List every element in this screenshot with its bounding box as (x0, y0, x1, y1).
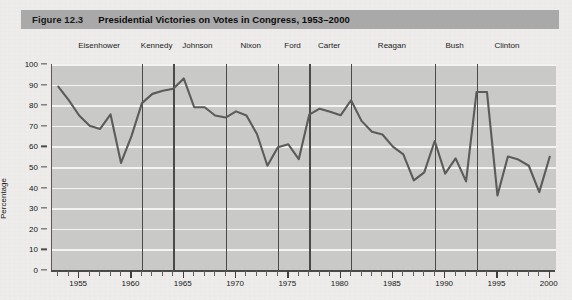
presidential-victories-line (58, 78, 549, 195)
y-tick-mark-90 (41, 84, 47, 85)
y-tick-mark-0 (41, 269, 47, 270)
x-tick-1957 (99, 271, 100, 276)
y-tick-label-70: 70 (29, 121, 38, 130)
x-tick-1962 (151, 271, 152, 276)
x-tick-1977 (308, 271, 309, 276)
president-label-carter: Carter (318, 41, 340, 50)
y-tick-mark-30 (41, 208, 47, 209)
x-tick-1966 (193, 271, 194, 276)
president-label-nixon: Nixon (240, 41, 260, 50)
x-tick-1990 (444, 271, 445, 278)
x-tick-1970 (235, 271, 236, 278)
x-tick-1991 (455, 271, 456, 276)
y-tick-label-0: 0 (34, 266, 38, 275)
x-tick-label-1955: 1955 (69, 279, 87, 288)
y-tick-label-40: 40 (29, 183, 38, 192)
x-tick-1961 (141, 271, 142, 276)
x-tick-1983 (371, 271, 372, 276)
figure-container: Figure 12.3 Presidential Victories on Vo… (0, 0, 572, 300)
x-tick-1975 (287, 271, 288, 278)
x-tick-1996 (507, 271, 508, 276)
x-tick-1969 (225, 271, 226, 276)
figure-title-bar: Figure 12.3 Presidential Victories on Vo… (21, 10, 559, 29)
x-tick-1986 (402, 271, 403, 276)
x-tick-1965 (183, 271, 184, 278)
x-tick-label-2000: 2000 (540, 279, 558, 288)
y-tick-mark-70 (41, 125, 47, 126)
y-tick-label-80: 80 (29, 101, 38, 110)
x-tick-1968 (214, 271, 215, 276)
x-tick-1972 (256, 271, 257, 276)
x-tick-1958 (110, 271, 111, 276)
x-tick-1985 (392, 271, 393, 278)
x-tick-1997 (517, 271, 518, 276)
x-tick-label-1985: 1985 (383, 279, 401, 288)
president-label-clinton: Clinton (494, 41, 519, 50)
y-tick-mark-80 (41, 105, 47, 106)
x-tick-1973 (266, 271, 267, 276)
x-tick-1959 (120, 271, 121, 276)
x-axis-line (51, 270, 555, 272)
figure-number: Figure 12.3 (32, 14, 83, 25)
x-tick-1960 (130, 271, 131, 278)
x-tick-1989 (434, 271, 435, 276)
y-tick-label-50: 50 (29, 163, 38, 172)
y-tick-mark-100 (41, 63, 47, 64)
president-label-reagan: Reagan (378, 41, 406, 50)
x-tick-1993 (476, 271, 477, 276)
x-tick-2000 (549, 271, 550, 278)
y-tick-label-10: 10 (29, 245, 38, 254)
y-tick-label-100: 100 (25, 60, 38, 69)
y-tick-label-90: 90 (29, 80, 38, 89)
president-label-kennedy: Kennedy (141, 41, 173, 50)
president-label-band: EisenhowerKennedyJohnsonNixonFordCarterR… (51, 41, 555, 57)
president-label-eisenhower: Eisenhower (78, 41, 120, 50)
x-tick-1999 (538, 271, 539, 276)
x-tick-1971 (245, 271, 246, 276)
x-tick-1954 (68, 271, 69, 276)
x-tick-1979 (329, 271, 330, 276)
y-tick-mark-10 (41, 249, 47, 250)
x-tick-1984 (381, 271, 382, 276)
x-tick-1953 (57, 271, 58, 276)
x-tick-1964 (172, 271, 173, 276)
y-tick-label-20: 20 (29, 224, 38, 233)
x-tick-1988 (423, 271, 424, 276)
x-tick-label-1980: 1980 (331, 279, 349, 288)
x-tick-label-1975: 1975 (278, 279, 296, 288)
president-label-ford: Ford (284, 41, 300, 50)
x-tick-1992 (465, 271, 466, 276)
y-tick-mark-20 (41, 228, 47, 229)
y-tick-mark-60 (41, 146, 47, 147)
plot-area (51, 64, 556, 270)
x-tick-1976 (298, 271, 299, 276)
president-label-bush: Bush (445, 41, 463, 50)
x-tick-1956 (89, 271, 90, 276)
president-label-johnson: Johnson (182, 41, 212, 50)
y-tick-label-30: 30 (29, 204, 38, 213)
x-tick-1981 (350, 271, 351, 276)
x-tick-1998 (528, 271, 529, 276)
x-tick-1987 (413, 271, 414, 276)
x-tick-label-1995: 1995 (488, 279, 506, 288)
x-tick-label-1990: 1990 (435, 279, 453, 288)
y-tick-mark-40 (41, 187, 47, 188)
x-tick-1980 (340, 271, 341, 278)
y-tick-mark-50 (41, 166, 47, 167)
y-tick-label-60: 60 (29, 142, 38, 151)
x-tick-label-1970: 1970 (226, 279, 244, 288)
x-tick-label-1960: 1960 (122, 279, 140, 288)
x-tick-1955 (78, 271, 79, 278)
x-tick-1978 (319, 271, 320, 276)
x-tick-1982 (361, 271, 362, 276)
y-axis-title: Percentage (0, 178, 8, 219)
x-tick-label-1965: 1965 (174, 279, 192, 288)
y-axis: Percentage 0102030405060708090100 (0, 56, 51, 276)
x-tick-1995 (496, 271, 497, 278)
x-tick-1994 (486, 271, 487, 276)
figure-title: Presidential Victories on Votes in Congr… (98, 14, 350, 25)
x-tick-1974 (277, 271, 278, 276)
x-tick-1967 (204, 271, 205, 276)
x-axis: 1955196019651970197519801985199019952000 (51, 270, 555, 298)
x-tick-1963 (162, 271, 163, 276)
